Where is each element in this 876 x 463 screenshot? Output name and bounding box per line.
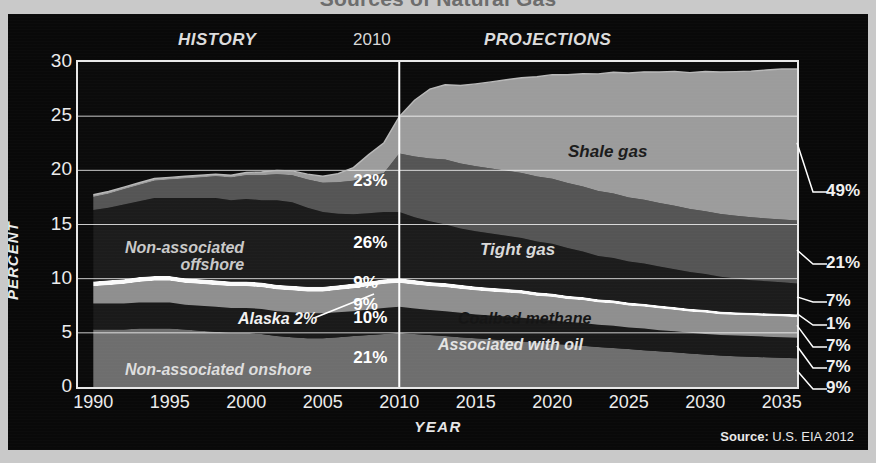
series-label-shale-gas: Shale gas bbox=[568, 142, 647, 162]
leader-line-1 bbox=[797, 250, 827, 264]
callout-2035-7pct-5: 7% bbox=[826, 357, 851, 377]
headline-strip: Sources of Natural Gas bbox=[0, 0, 876, 14]
y-tick-15: 15 bbox=[26, 214, 72, 233]
source-prefix: Source: bbox=[720, 429, 768, 444]
x-tick-2015: 2015 bbox=[456, 392, 496, 413]
x-tick-1995: 1995 bbox=[150, 392, 190, 413]
x-axis-labels: 1990199520002005201020152020202520302035 bbox=[76, 392, 799, 418]
y-axis-title: PERCENT bbox=[8, 221, 21, 300]
naoff-line2: offshore bbox=[125, 257, 244, 274]
x-tick-2010: 2010 bbox=[379, 392, 419, 413]
chart-panel: HISTORY 2010 PROJECTIONS 051015202530 PE… bbox=[8, 14, 868, 450]
callout-2010-5: 21% bbox=[353, 348, 387, 368]
callout-2010-4: 10% bbox=[353, 308, 387, 328]
y-tick-5: 5 bbox=[26, 322, 72, 341]
callout-2035-9pct-6: 9% bbox=[826, 378, 851, 398]
y-tick-10: 10 bbox=[26, 268, 72, 287]
x-tick-2025: 2025 bbox=[609, 392, 649, 413]
series-label-alaska: Alaska 2% bbox=[238, 310, 317, 328]
source-text: U.S. EIA 2012 bbox=[769, 429, 854, 444]
leader-line-4 bbox=[797, 325, 827, 347]
series-label-associated-with-oil: Associated with oil bbox=[438, 336, 583, 354]
callout-2010-2: 9% bbox=[353, 273, 378, 293]
callout-2010-0: 23% bbox=[353, 171, 387, 191]
y-axis-labels: 051015202530 bbox=[16, 60, 72, 385]
x-tick-2020: 2020 bbox=[532, 392, 572, 413]
y-tick-20: 20 bbox=[26, 159, 72, 178]
y-tick-25: 25 bbox=[26, 105, 72, 124]
x-tick-2000: 2000 bbox=[226, 392, 266, 413]
x-tick-2035: 2035 bbox=[762, 392, 802, 413]
x-tick-1990: 1990 bbox=[73, 392, 113, 413]
x-tick-2030: 2030 bbox=[685, 392, 725, 413]
series-label-tight-gas: Tight gas bbox=[480, 240, 555, 260]
series-label-nonassociated-onshore: Non-associated onshore bbox=[125, 361, 312, 379]
leader-line-6 bbox=[797, 371, 827, 389]
source-note: Source: U.S. EIA 2012 bbox=[720, 429, 854, 444]
callout-2035-7pct-2: 7% bbox=[826, 291, 851, 311]
headline-text: Sources of Natural Gas bbox=[0, 0, 876, 11]
callout-2035-1pct-3: 1% bbox=[826, 314, 851, 334]
callout-2010-1: 26% bbox=[353, 233, 387, 253]
history-header: HISTORY bbox=[178, 30, 256, 50]
naoff-line1: Non-associated bbox=[125, 239, 244, 256]
divider-year-header: 2010 bbox=[353, 30, 391, 50]
leader-line-2 bbox=[797, 297, 827, 302]
leader-line-5 bbox=[797, 346, 827, 368]
series-label-nonassociated-offshore: Non-associatedoffshore bbox=[125, 240, 244, 274]
callout-2035-21pct-1: 21% bbox=[826, 253, 860, 273]
chart-screenshot: Sources of Natural Gas HISTORY 2010 PROJ… bbox=[0, 0, 876, 463]
series-label-coalbed-methane: Coalbed methane bbox=[458, 310, 591, 328]
y-tick-0: 0 bbox=[26, 376, 72, 395]
callout-2035-49pct-0: 49% bbox=[826, 181, 860, 201]
x-tick-2005: 2005 bbox=[303, 392, 343, 413]
callout-2035-7pct-4: 7% bbox=[826, 336, 851, 356]
projections-header: PROJECTIONS bbox=[484, 30, 611, 50]
leader-line-3 bbox=[797, 314, 827, 325]
y-tick-30: 30 bbox=[26, 51, 72, 70]
leader-line-0 bbox=[797, 143, 827, 192]
